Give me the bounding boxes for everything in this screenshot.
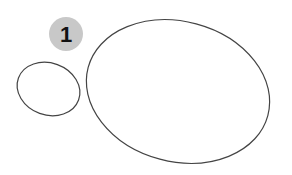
small-ellipse bbox=[10, 54, 88, 125]
badge-label: 1 bbox=[60, 22, 72, 47]
diagram-canvas: 1 bbox=[0, 0, 292, 175]
large-ellipse bbox=[70, 0, 286, 175]
number-badge: 1 bbox=[49, 17, 83, 51]
